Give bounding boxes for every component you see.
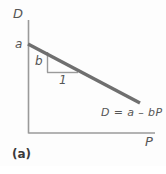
demand-curve-line — [28, 44, 140, 103]
panel-caption: (a) — [12, 148, 31, 160]
bottom-margin-strip — [0, 166, 166, 174]
slope-run-label-one: 1 — [59, 74, 67, 86]
x-axis-label: P — [145, 135, 153, 148]
slope-rise-label-b: b — [35, 55, 43, 67]
intercept-label-a: a — [15, 38, 22, 50]
demand-curve-figure: D P a b 1 D = a – bP (a) — [0, 0, 166, 174]
y-axis-label: D — [13, 7, 23, 20]
demand-equation-label: D = a – bP — [101, 107, 163, 118]
